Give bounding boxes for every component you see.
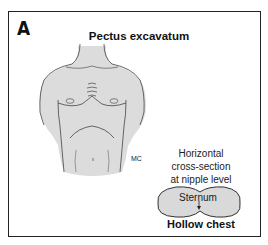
figure-caption: Hollow chest	[146, 218, 256, 230]
sternum-label: Sternum	[168, 192, 228, 203]
chest-cross-section	[0, 0, 268, 245]
